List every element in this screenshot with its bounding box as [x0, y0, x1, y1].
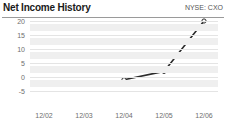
y-axis-tick-label: 10 [17, 46, 25, 53]
y-axis: 20151050-5 [0, 21, 28, 111]
y-axis-tick-label: 5 [21, 60, 25, 67]
gridline [30, 49, 218, 50]
plot-area [30, 21, 218, 91]
ticker-symbol-label: NYSE: CXO [185, 4, 223, 11]
gridline [30, 91, 218, 92]
x-axis-tick-label: 12/06 [189, 112, 219, 120]
x-axis-tick-label: 12/05 [149, 112, 179, 120]
x-axis-tick-label: 12/04 [109, 112, 139, 120]
x-axis-tick-label: 12/03 [69, 112, 99, 120]
grid-band [30, 38, 218, 45]
grid-band [30, 24, 218, 31]
net-income-history-widget: Net Income History NYSE: CXO 20151050-5 … [0, 0, 226, 124]
gridline [30, 63, 218, 64]
grid-band [30, 52, 218, 59]
x-axis: 12/0212/0312/0412/0512/06 [0, 112, 226, 122]
widget-header: Net Income History NYSE: CXO [0, 0, 226, 18]
gridline [30, 77, 218, 78]
y-axis-tick-label: 15 [17, 32, 25, 39]
y-axis-tick-label: -5 [19, 88, 25, 95]
y-axis-tick-label: 20 [17, 18, 25, 25]
header-divider [2, 17, 224, 18]
gridline [30, 21, 218, 22]
x-axis-tick-label: 12/02 [29, 112, 59, 120]
page-title: Net Income History [3, 2, 91, 13]
grid-band [30, 80, 218, 87]
gridline [30, 35, 218, 36]
grid-band [30, 66, 218, 73]
y-axis-tick-label: 0 [21, 74, 25, 81]
